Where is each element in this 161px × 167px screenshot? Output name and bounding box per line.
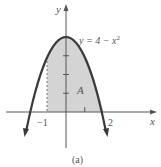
curve-right-arrow-icon — [103, 128, 109, 137]
y-axis-label: y — [55, 3, 61, 15]
x-axis-arrow-icon — [150, 110, 157, 115]
curve-left-arrow-icon — [23, 128, 29, 137]
tick-label-2: 2 — [108, 117, 113, 128]
y-axis-arrow-icon — [64, 4, 69, 11]
tick-label-neg1: −1 — [37, 117, 48, 128]
parabola-figure: y x −1 2 A y = 4 − x2 (a) — [0, 0, 161, 167]
figure-caption: (a) — [72, 154, 83, 166]
region-label-a: A — [76, 84, 84, 96]
equation-label: y = 4 − x2 — [78, 34, 120, 46]
shaded-region-a — [47, 37, 103, 112]
x-axis-label: x — [149, 115, 155, 127]
